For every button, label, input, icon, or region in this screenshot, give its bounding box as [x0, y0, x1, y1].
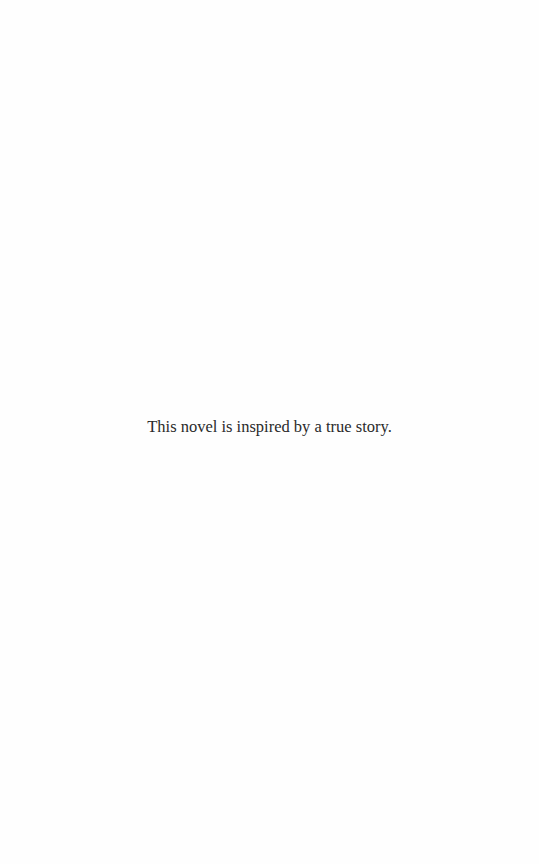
book-page: This novel is inspired by a true story.: [0, 0, 539, 864]
epigraph-text: This novel is inspired by a true story.: [0, 417, 539, 437]
